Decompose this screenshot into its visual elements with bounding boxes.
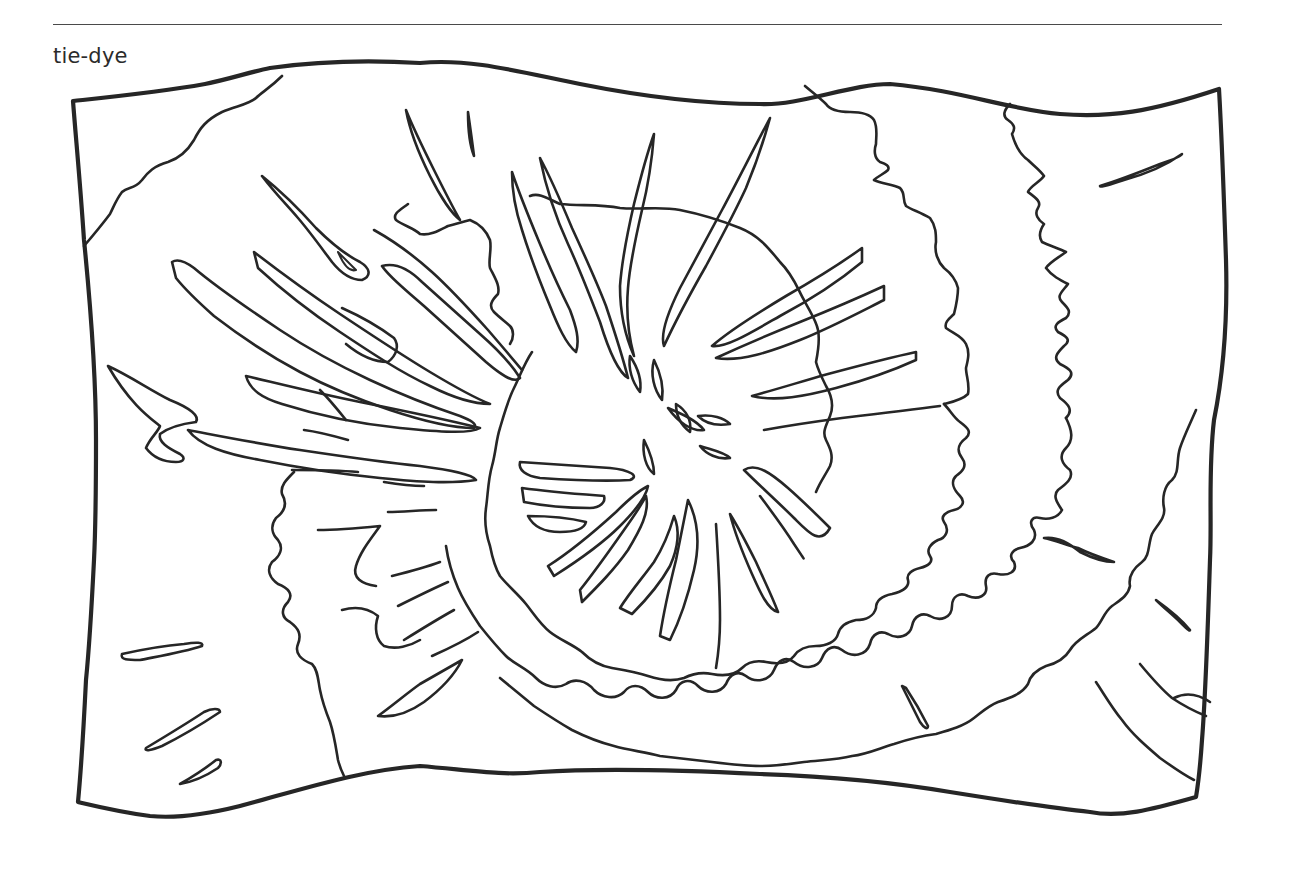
- cloth-streaks: [122, 154, 1210, 784]
- fold-line-left-lower: [269, 472, 344, 776]
- spiral-band-5: [500, 410, 1196, 766]
- spiral-band-4: [446, 418, 1071, 698]
- spiral-band-2: [530, 195, 832, 492]
- center-burst: [108, 110, 940, 668]
- tie-dye-illustration: [0, 0, 1289, 870]
- left-band-segments: [292, 308, 478, 716]
- fold-line-top-center: [805, 86, 969, 404]
- fold-line-top-left: [84, 76, 282, 246]
- fold-line-right: [1004, 104, 1071, 418]
